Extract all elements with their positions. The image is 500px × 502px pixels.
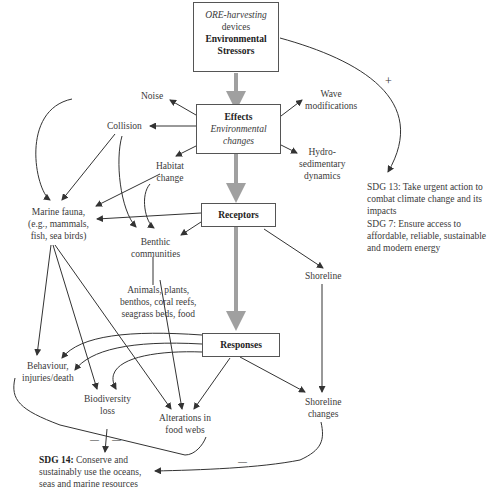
minus-sign-2: — — [112, 434, 121, 444]
stressors-line4: Stressors — [194, 45, 278, 57]
biodiversity-label: Biodiversity loss — [84, 393, 131, 417]
shoreline-changes-label: Shoreline changes — [305, 396, 341, 420]
plus-sign: + — [385, 74, 392, 89]
shoreline-label: Shoreline — [305, 270, 341, 282]
animals-line1: Animals, plants, — [120, 284, 197, 296]
hydro-line2: sedimentary — [299, 158, 345, 170]
stressors-line2: devices — [194, 21, 278, 33]
sdg14-label: SDG 14: — [39, 455, 74, 465]
behaviour-line1: Behaviour, — [22, 360, 74, 372]
benthic-communities-label: Benthic communities — [131, 236, 180, 260]
wave-line2: modifications — [305, 100, 357, 112]
marine-line3: fish, sea birds) — [28, 230, 89, 242]
food-webs-label: Alterations in food webs — [159, 412, 211, 436]
receptors-title: Receptors — [202, 209, 275, 221]
behaviour-label: Behaviour, injuries/death — [22, 360, 74, 384]
noise-label: Noise — [141, 90, 163, 102]
responses-title: Responses — [203, 339, 279, 351]
habitat-line2: change — [156, 172, 184, 184]
effects-title: Effects — [197, 111, 280, 123]
marine-line2: (e.g., mammals, — [28, 218, 89, 230]
shore-line1: Shoreline — [305, 396, 341, 408]
minus-sign-3: — — [238, 456, 247, 466]
sdg7-text: SDG 7: Ensure access to affordable, reli… — [367, 218, 500, 254]
minus-sign-1: — — [90, 434, 99, 444]
hydro-sedimentary-label: Hydro- sedimentary dynamics — [299, 146, 345, 182]
wave-modifications-label: Wave modifications — [305, 88, 357, 112]
collision-label: Collision — [107, 120, 142, 132]
animals-line3: seagrass beds, food — [120, 308, 197, 320]
receptors-box: Receptors — [201, 203, 276, 227]
food-line2: food webs — [159, 424, 211, 436]
animals-plants-label: Animals, plants, benthos, coral reefs, s… — [120, 284, 197, 320]
stressors-line3: Environmental — [194, 33, 278, 45]
benthic-line1: Benthic — [131, 236, 180, 248]
wave-line1: Wave — [305, 88, 357, 100]
sdg14-text: SDG 14: Conserve and sustainably use the… — [39, 454, 159, 490]
effects-box: Effects Environmental changes — [196, 104, 281, 154]
benthic-line2: communities — [131, 248, 180, 260]
behaviour-line2: injuries/death — [22, 372, 74, 384]
effects-sub1: Environmental — [197, 123, 280, 135]
biodiversity-line2: loss — [84, 405, 131, 417]
habitat-line1: Habitat — [156, 160, 184, 172]
habitat-change-label: Habitat change — [156, 160, 184, 184]
food-line1: Alterations in — [159, 412, 211, 424]
marine-line1: Marine fauna, — [28, 206, 89, 218]
marine-fauna-label: Marine fauna, (e.g., mammals, fish, sea … — [28, 206, 89, 242]
stressors-line1: ORE-harvesting — [194, 9, 278, 21]
biodiversity-line1: Biodiversity — [84, 393, 131, 405]
animals-line2: benthos, coral reefs, — [120, 296, 197, 308]
responses-box: Responses — [202, 333, 280, 357]
shore-line2: changes — [305, 408, 341, 420]
hydro-line3: dynamics — [299, 170, 345, 182]
stressors-box: ORE-harvesting devices Environmental Str… — [193, 2, 279, 72]
hydro-line1: Hydro- — [299, 146, 345, 158]
sdg13-text: SDG 13: Take urgent action to combat cli… — [367, 181, 500, 217]
effects-sub2: changes — [197, 135, 280, 147]
